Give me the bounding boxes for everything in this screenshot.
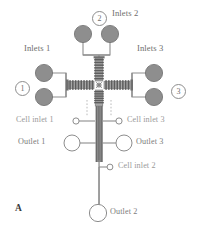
port-cell-inlet-2 xyxy=(107,164,113,170)
channel-inlet-1a xyxy=(52,73,66,85)
trunk-line-3 xyxy=(101,104,102,162)
trunk-line-1 xyxy=(96,104,97,162)
reservoir-inlet-3b xyxy=(145,88,162,105)
marker-stage-2: 2 xyxy=(92,11,107,26)
reservoir-inlet-2a xyxy=(74,25,91,42)
main-trunk-bundle xyxy=(95,104,102,206)
label-cell-inlet-1: Cell inlet 1 xyxy=(16,116,54,124)
central-junction xyxy=(96,82,102,88)
port-outlet-3 xyxy=(116,135,132,151)
panel-label-a: A xyxy=(15,203,22,213)
mixer-right xyxy=(104,80,133,91)
label-outlet-3: Outlet 3 xyxy=(136,138,163,146)
label-inlets-2: Inlets 2 xyxy=(112,9,138,18)
port-cell-inlet-1 xyxy=(73,118,79,124)
channel-inlet-2a xyxy=(83,42,99,55)
trunk-line-2 xyxy=(98,104,99,162)
label-cell-inlet-3: Cell inlet 3 xyxy=(127,116,165,124)
channel-inlet-1b xyxy=(52,85,66,97)
label-outlet-2: Outlet 2 xyxy=(110,208,137,216)
reservoir-inlet-2b xyxy=(101,25,118,42)
reservoir-inlet-3a xyxy=(145,64,162,81)
channel-inlet-3a xyxy=(132,73,146,85)
mixer-left xyxy=(66,80,94,91)
label-cell-inlet-2: Cell inlet 2 xyxy=(118,162,156,170)
label-inlets-1: Inlets 1 xyxy=(24,44,50,53)
mixer-top xyxy=(94,56,105,81)
port-outlet-2 xyxy=(89,204,106,221)
channel-inlet-3b xyxy=(132,85,146,97)
port-cell-inlet-3 xyxy=(116,118,122,124)
marker-stage-1: 1 xyxy=(15,81,30,96)
trunk-stem-lower xyxy=(98,160,99,206)
reservoir-inlet-1a xyxy=(35,64,52,81)
label-inlets-3: Inlets 3 xyxy=(137,44,163,53)
port-outlet-1 xyxy=(64,135,80,151)
channel-inlet-2b xyxy=(99,42,110,55)
marker-stage-3: 3 xyxy=(171,84,186,99)
reservoir-inlet-1b xyxy=(35,88,52,105)
figure-panel-a: Inlets 1 Inlets 2 Inlets 3 Cell inlet 1 … xyxy=(0,0,199,243)
trunk-line-4 xyxy=(102,104,103,162)
label-outlet-1: Outlet 1 xyxy=(18,138,45,146)
mixer-bottom xyxy=(94,90,104,106)
